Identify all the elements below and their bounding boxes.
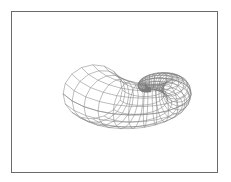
- mesh-line: [84, 75, 129, 125]
- seashell-wireframe: [0, 0, 231, 182]
